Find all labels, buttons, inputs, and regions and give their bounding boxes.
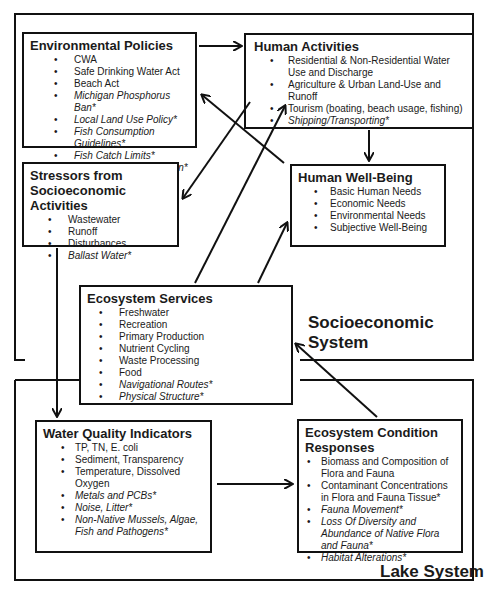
list-item-text: Economic Needs <box>330 198 438 210</box>
list-item: •Freshwater <box>87 307 285 319</box>
bullet-icon: • <box>54 66 58 78</box>
list-item: •Beach Act <box>30 78 189 90</box>
list-item-text: Ballast Water* <box>68 250 171 262</box>
list-item-text: Sediment, Transparency <box>75 454 204 466</box>
list-item-text: Safe Drinking Water Act <box>74 66 189 78</box>
list-item-text: Tourism (boating, beach usage, fishing) <box>288 103 466 115</box>
list-item-text: Environmental Needs <box>330 210 438 222</box>
list-item-text: Fish Catch Limits* <box>74 150 189 162</box>
list-item: •TP, TN, E. coli <box>43 442 204 454</box>
bullet-icon: • <box>48 250 52 262</box>
list-item-text: Nutrient Cycling <box>119 343 285 355</box>
list-item: •Economic Needs <box>298 198 438 210</box>
list-item-text: Contaminant Concentrations in Flora and … <box>321 480 455 504</box>
list-item: •Sediment, Transparency <box>43 454 204 466</box>
list-item-text: Subjective Well-Being <box>330 222 438 234</box>
list-item-text: Primary Production <box>119 331 285 343</box>
list-item: •Biomass and Composition of Flora and Fa… <box>305 456 455 480</box>
water-quality-indicators-box: Water Quality Indicators •TP, TN, E. col… <box>35 420 212 553</box>
human-activities-title: Human Activities <box>254 39 466 54</box>
bullet-icon: • <box>54 114 58 126</box>
bullet-icon: • <box>99 355 103 367</box>
human-activities-list: •Residential & Non-Residential Water Use… <box>254 55 466 127</box>
list-item: •CWA <box>30 54 189 66</box>
water-quality-title: Water Quality Indicators <box>43 426 204 441</box>
arrow-condition-to-services <box>296 344 377 417</box>
environmental-policies-title: Environmental Policies <box>30 38 189 53</box>
list-item-text: Residential & Non-Residential Water Use … <box>288 55 466 79</box>
bullet-icon: • <box>54 126 58 138</box>
ecosystem-condition-box: Ecosystem Condition Responses •Biomass a… <box>297 419 463 553</box>
list-item-text: Food <box>119 367 285 379</box>
bullet-icon: • <box>61 454 65 466</box>
list-item-text: TP, TN, E. coli <box>75 442 204 454</box>
list-item-text: Physical Structure* <box>119 391 285 403</box>
bullet-icon: • <box>99 379 103 391</box>
list-item-text: Fish Consumption Guidelines* <box>74 126 189 150</box>
list-item: •Residential & Non-Residential Water Use… <box>254 55 466 79</box>
list-item-text: Disturbances <box>68 238 171 250</box>
bullet-icon: • <box>99 331 103 343</box>
bullet-icon: • <box>314 210 318 222</box>
bullet-icon: • <box>270 79 274 91</box>
list-item-text: Shipping/Transporting* <box>288 115 466 127</box>
environmental-policies-list: •CWA•Safe Drinking Water Act•Beach Act•M… <box>30 54 189 174</box>
bullet-icon: • <box>270 55 274 67</box>
bullet-icon: • <box>99 343 103 355</box>
bullet-icon: • <box>314 186 318 198</box>
list-item: •Runoff <box>30 226 171 238</box>
ecosystem-condition-list: •Biomass and Composition of Flora and Fa… <box>305 456 455 564</box>
bullet-icon: • <box>270 115 274 127</box>
list-item-text: Beach Act <box>74 78 189 90</box>
bullet-icon: • <box>99 307 103 319</box>
human-well-being-title: Human Well-Being <box>298 170 438 185</box>
human-well-being-list: •Basic Human Needs•Economic Needs•Enviro… <box>298 186 438 234</box>
list-item: •Michigan Phosphorus Ban* <box>30 90 189 114</box>
socioeconomic-system-label: Socioeconomic System <box>308 313 488 353</box>
list-item-text: Waste Processing <box>119 355 285 367</box>
list-item-text: Freshwater <box>119 307 285 319</box>
list-item: •Shipping/Transporting* <box>254 115 466 127</box>
bullet-icon: • <box>54 150 58 162</box>
human-well-being-box: Human Well-Being •Basic Human Needs•Econ… <box>290 164 446 247</box>
list-item-text: Recreation <box>119 319 285 331</box>
list-item: •Wastewater <box>30 214 171 226</box>
bullet-icon: • <box>61 442 65 454</box>
list-item: •Metals and PCBs* <box>43 490 204 502</box>
bullet-icon: • <box>48 226 52 238</box>
bullet-icon: • <box>270 103 274 115</box>
bullet-icon: • <box>54 90 58 102</box>
list-item: •Fauna Movement* <box>305 504 455 516</box>
list-item: •Environmental Needs <box>298 210 438 222</box>
list-item: •Nutrient Cycling <box>87 343 285 355</box>
bullet-icon: • <box>314 222 318 234</box>
list-item: •Recreation <box>87 319 285 331</box>
bullet-icon: • <box>48 238 52 250</box>
list-item-text: Basic Human Needs <box>330 186 438 198</box>
bullet-icon: • <box>99 319 103 331</box>
bullet-icon: • <box>48 214 52 226</box>
stressors-list: •Wastewater•Runoff•Disturbances•Ballast … <box>30 214 171 262</box>
bullet-icon: • <box>307 480 311 492</box>
list-item: •Subjective Well-Being <box>298 222 438 234</box>
bullet-icon: • <box>61 502 65 514</box>
list-item: •Loss Of Diversity and Abundance of Nati… <box>305 516 455 552</box>
bullet-icon: • <box>54 54 58 66</box>
list-item: •Fish Consumption Guidelines* <box>30 126 189 150</box>
list-item: •Ballast Water* <box>30 250 171 262</box>
environmental-policies-box: Environmental Policies •CWA•Safe Drinkin… <box>22 32 197 148</box>
list-item-text: Michigan Phosphorus Ban* <box>74 90 189 114</box>
list-item: •Primary Production <box>87 331 285 343</box>
list-item: •Basic Human Needs <box>298 186 438 198</box>
bullet-icon: • <box>307 552 311 564</box>
ecosystem-services-box: Ecosystem Services •Freshwater•Recreatio… <box>79 285 293 405</box>
lake-system-label: Lake System <box>380 562 484 582</box>
list-item: •Fish Catch Limits* <box>30 150 189 162</box>
ecosystem-condition-title: Ecosystem Condition Responses <box>305 425 455 455</box>
bullet-icon: • <box>99 391 103 403</box>
list-item: •Physical Structure* <box>87 391 285 403</box>
list-item-text: CWA <box>74 54 189 66</box>
stressors-box: Stressors from Socioeconomic Activities … <box>22 162 179 247</box>
list-item: •Agriculture & Urban Land-Use and Runoff <box>254 79 466 103</box>
water-quality-list: •TP, TN, E. coli•Sediment, Transparency•… <box>43 442 204 538</box>
